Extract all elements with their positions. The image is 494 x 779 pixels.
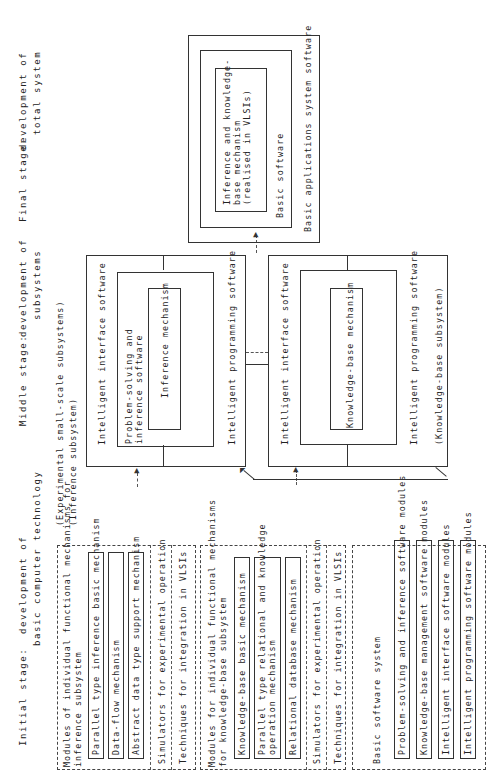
connector	[163, 255, 164, 270]
kb-mechanism-label: Knowledge-base mechanism	[345, 282, 356, 428]
middle-stage-heading: (Experimental small-scale subsystems)	[55, 300, 66, 526]
inference-subsystem-label: (Inference subsystem)	[68, 398, 79, 526]
kb-simulators-label: Simulators for experimental operation	[312, 538, 323, 764]
initial-stage-label: Initial stage:	[17, 648, 30, 746]
inference-techniques-label: Techniques for integration in VLSIs	[178, 551, 189, 764]
connector	[347, 445, 348, 467]
initial-stage-line2: basic computer technology	[31, 471, 44, 646]
connector	[253, 479, 448, 480]
module-intelligent-programming-label: Intelligent programming software modules	[463, 511, 474, 755]
arrow-diagonal	[435, 467, 446, 477]
basic-software-title: Basic software system	[372, 636, 383, 764]
initial-stage-line1: development of	[17, 536, 30, 634]
connector	[347, 255, 348, 270]
module-abstract-data-label: Abstract data type support mechanism	[131, 536, 142, 755]
kb-interface-label: Intelligent interface software	[280, 262, 291, 445]
module-kb-management-label: Knowledge-base management software modul…	[419, 499, 430, 755]
kb-techniques-label: Techniques for integration in VLSIs	[333, 551, 344, 764]
arrow-line	[137, 473, 138, 487]
problem-solving-label-2: inference software	[134, 334, 145, 444]
inference-group-title-2: inference subsystem	[73, 651, 84, 767]
divider	[306, 545, 307, 770]
subsystem-link-dashed	[246, 352, 268, 353]
kb-programming-label: Intelligent programming software	[409, 250, 420, 445]
final-stage-label: Final stage:	[17, 138, 30, 222]
divider	[171, 545, 172, 770]
middle-stage-label: Middle stage:	[17, 335, 30, 426]
inference-interface-label: Intelligent interface software	[97, 262, 108, 445]
module-data-flow-label: Data-flow mechanism	[111, 639, 122, 755]
module-parallel-relational-label-2: operation mechanism	[267, 639, 278, 755]
connector	[163, 445, 164, 467]
subsystem-link-solid	[246, 364, 268, 365]
inference-programming-label: Intelligent programming software	[227, 250, 238, 445]
middle-stage-line1: development of	[17, 239, 30, 337]
kb-group-title-1: Modules for individual functional mechan…	[207, 499, 218, 767]
arrow-up-icon: ▲	[134, 466, 139, 475]
module-relational-db-label: Relational database mechanism	[288, 578, 299, 755]
final-stage-line2: total system	[31, 51, 44, 135]
final-stage-line1: development of	[17, 52, 30, 150]
basic-software-label: Basic software	[275, 133, 286, 218]
inference-mechanism-label: Inference mechanism	[160, 282, 171, 398]
module-parallel-inference-label: Parallel type inference basic mechanism	[91, 517, 102, 755]
divider	[326, 545, 327, 770]
inference-simulators-label: Simulators for experimental operation	[157, 538, 168, 764]
kb-group-title-2: for knowledge-base subsystem	[218, 596, 229, 767]
arrow-up-icon: ▲	[293, 465, 298, 474]
divider	[150, 545, 151, 770]
module-kb-basic-label: Knowledge-base basic mechanism	[237, 572, 248, 755]
applications-label: Basic applications system software	[303, 25, 314, 232]
arrow-icon: ◤	[240, 466, 245, 475]
module-intelligent-interface-label: Intelligent interface software modules	[441, 523, 452, 755]
kb-subsystem-label: (Knowledge-base subsystem)	[434, 287, 445, 445]
final-core-line3: (realised in VLSIs)	[242, 89, 253, 205]
middle-stage-line2: subsystems	[31, 250, 44, 320]
module-problem-solving-label: Problem-solving and inference software m…	[397, 475, 408, 755]
